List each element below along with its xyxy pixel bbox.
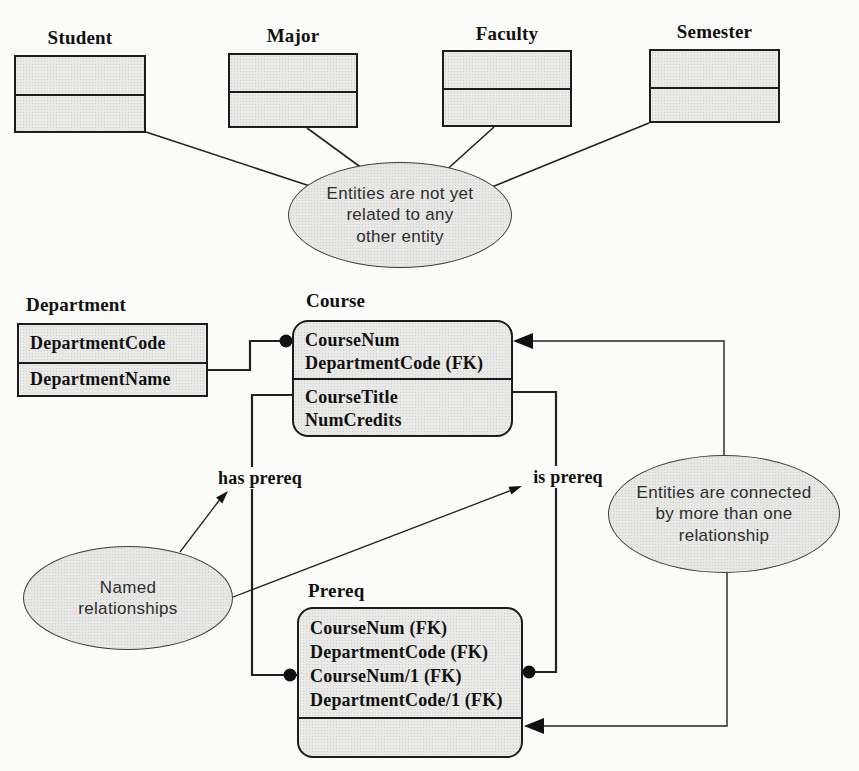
- identifying-dot-prereq-left-icon: [284, 669, 297, 682]
- callout-text-line: relationship: [679, 525, 770, 547]
- arrowhead-into-prereq-icon: [524, 718, 544, 734]
- entity-body-compartment: [444, 88, 570, 125]
- entity-box-major: [228, 53, 358, 128]
- callout-text-line: by more than one: [655, 503, 792, 525]
- entity-label-faculty: Faculty: [442, 23, 572, 45]
- body-compartment: DepartmentName: [19, 362, 206, 395]
- connector-department-course: [208, 341, 292, 370]
- pointer-named-to-is-prereq: [233, 490, 512, 597]
- key-compartment: DepartmentCode: [19, 325, 206, 362]
- relationship-label-is-prereq: is prereq: [522, 466, 614, 488]
- table-row: DepartmentName: [19, 368, 171, 391]
- key-compartment: CourseNum DepartmentCode (FK): [294, 322, 511, 378]
- arrowhead-is-prereq-icon: [508, 486, 522, 495]
- callout-text-line: related to any: [346, 204, 453, 226]
- table-row: DepartmentCode (FK): [294, 352, 511, 375]
- table-row: CourseNum/1 (FK): [299, 664, 521, 688]
- callout-text-line: Entities are connected: [637, 482, 812, 504]
- entity-body-compartment: [230, 91, 356, 126]
- identifying-dot-course-left-icon: [280, 335, 293, 348]
- table-title-prereq: Prereq: [308, 580, 364, 602]
- table-course: CourseNum DepartmentCode (FK) CourseTitl…: [292, 320, 513, 437]
- table-title-department: Department: [26, 294, 126, 316]
- callout-text-line: Entities are not yet: [327, 183, 474, 205]
- entity-box-faculty: [442, 50, 572, 127]
- entity-key-compartment: [651, 51, 778, 87]
- callout-unrelated: Entities are not yet related to any othe…: [288, 162, 512, 268]
- connector-multi-callout-course: [531, 341, 724, 455]
- entity-label-major: Major: [228, 25, 358, 47]
- entity-key-compartment: [230, 55, 356, 91]
- arrowhead-into-course-icon: [513, 333, 533, 349]
- table-row: DepartmentCode/1 (FK): [299, 688, 521, 712]
- callout-text-line: Named: [100, 577, 156, 599]
- identifying-dot-prereq-right-icon: [523, 666, 536, 679]
- entity-key-compartment: [16, 57, 144, 94]
- entity-box-semester: [649, 49, 780, 123]
- entity-box-student: [14, 55, 146, 133]
- connector-has-prereq: [252, 395, 297, 675]
- table-row: CourseNum: [294, 329, 511, 352]
- entity-body-compartment: [16, 94, 144, 131]
- body-compartment: [299, 717, 521, 756]
- table-row: DepartmentCode: [19, 332, 166, 355]
- body-compartment: CourseTitle NumCredits: [294, 378, 511, 435]
- entity-label-student: Student: [14, 27, 146, 49]
- key-compartment: CourseNum (FK) DepartmentCode (FK) Cours…: [299, 609, 521, 717]
- connector-semester-callout: [487, 123, 649, 189]
- table-prereq: CourseNum (FK) DepartmentCode (FK) Cours…: [297, 607, 523, 758]
- entity-label-semester: Semester: [649, 21, 780, 43]
- entity-body-compartment: [651, 87, 778, 121]
- entity-key-compartment: [444, 52, 570, 88]
- table-row: CourseTitle: [294, 386, 511, 409]
- callout-text-line: other entity: [356, 226, 444, 248]
- table-title-course: Course: [306, 290, 365, 312]
- callout-named-relationships: Named relationships: [23, 546, 233, 650]
- table-row: DepartmentCode (FK): [299, 640, 521, 664]
- table-row: NumCredits: [294, 409, 511, 432]
- table-department: DepartmentCode DepartmentName: [17, 323, 208, 397]
- table-row: CourseNum (FK): [299, 616, 521, 640]
- callout-text-line: relationships: [78, 598, 177, 620]
- callout-multiple-relationships: Entities are connected by more than one …: [608, 455, 840, 573]
- er-diagram-figure: Student Major Faculty Semester Entities …: [0, 0, 859, 771]
- pointer-named-to-has-prereq: [180, 498, 221, 552]
- connector-multi-callout-prereq: [542, 573, 727, 726]
- relationship-label-has-prereq: has prereq: [211, 467, 309, 489]
- connector-student-callout: [146, 132, 316, 188]
